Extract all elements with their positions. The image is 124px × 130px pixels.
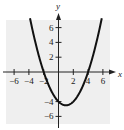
x-tick-label: −4 [24, 76, 34, 86]
y-tick-label: 2 [49, 52, 54, 62]
x-tick-label: 2 [71, 76, 76, 86]
y-tick-label: −6 [44, 111, 54, 121]
y-tick-label: −4 [44, 97, 54, 107]
x-tick-label: −6 [9, 76, 19, 86]
x-axis-label: x [117, 69, 122, 79]
x-tick-label: 6 [101, 76, 106, 86]
y-tick-label: 6 [49, 23, 54, 33]
y-axis-label: y [55, 1, 60, 11]
x-axis-arrow-icon [109, 70, 116, 75]
parabola-chart: −6−4−2246642−4−6 x y [0, 0, 124, 130]
y-axis-arrow-icon [56, 13, 61, 20]
y-tick-label: 4 [49, 37, 54, 47]
